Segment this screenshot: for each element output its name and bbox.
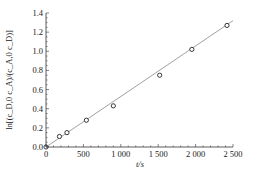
y-tick-label: 0.2 bbox=[32, 123, 43, 133]
x-tick-label: 2 500 bbox=[223, 149, 242, 159]
y-tick-label: 1.0 bbox=[32, 46, 43, 56]
data-point-marker bbox=[57, 134, 61, 138]
y-tick-label: 0.0 bbox=[32, 142, 43, 152]
scatter-chart: 05001 0001 5002 0002 500 0.00.20.40.60.8… bbox=[0, 0, 255, 181]
x-tick-label: 0 bbox=[44, 149, 48, 159]
data-point-marker bbox=[65, 131, 69, 135]
data-point-marker bbox=[225, 23, 229, 27]
y-tick-label: 1.2 bbox=[32, 27, 43, 37]
data-point-marker bbox=[190, 47, 194, 51]
x-tick-label: 1 500 bbox=[149, 149, 168, 159]
y-tick-label: 0.6 bbox=[32, 85, 43, 95]
data-point-marker bbox=[84, 118, 88, 122]
x-tick-label: 1 000 bbox=[111, 149, 130, 159]
fit-line bbox=[46, 21, 233, 147]
data-point-marker bbox=[111, 104, 115, 108]
x-tick-label: 2 000 bbox=[186, 149, 205, 159]
y-tick-label: 1.4 bbox=[32, 8, 43, 18]
x-axis: 05001 0001 5002 0002 500 bbox=[44, 144, 243, 159]
y-axis-title: ln[(c_D,0 c_A)/(c_A,0 c_D)] bbox=[4, 30, 14, 130]
x-tick-label: 500 bbox=[77, 149, 90, 159]
data-point-marker bbox=[158, 73, 162, 77]
plot-area bbox=[44, 21, 233, 149]
y-axis: 0.00.20.40.60.81.01.21.4 bbox=[32, 8, 49, 152]
x-axis-title: t/s bbox=[136, 159, 145, 169]
y-tick-label: 0.8 bbox=[32, 65, 43, 75]
y-tick-label: 0.4 bbox=[32, 104, 43, 114]
